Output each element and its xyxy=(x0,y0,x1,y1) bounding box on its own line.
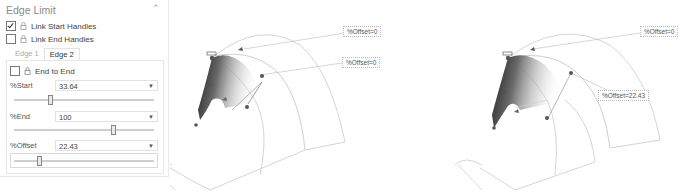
end-input[interactable]: 100 ▼ xyxy=(55,111,158,122)
slider-track xyxy=(14,99,154,101)
link-start-handles-checkbox[interactable] xyxy=(6,21,16,31)
end-to-end-row[interactable]: End to End xyxy=(10,65,75,77)
start-label: %Start xyxy=(10,81,33,90)
edge-limit-panel: Edge Limit ⌃ Link Start Handles Link End… xyxy=(0,0,169,177)
dropdown-arrow-icon[interactable]: ▼ xyxy=(148,141,154,152)
end-slider[interactable] xyxy=(14,125,154,135)
link-end-handles-row[interactable]: Link End Handles xyxy=(6,33,94,45)
tab-edge-2[interactable]: Edge 2 xyxy=(44,48,80,60)
dropdown-arrow-icon[interactable]: ▼ xyxy=(148,112,154,123)
slider-track xyxy=(14,129,154,131)
start-value: 33.64 xyxy=(59,82,78,91)
link-icon xyxy=(20,35,27,43)
start-input[interactable]: 33.64 ▼ xyxy=(55,80,158,91)
offset-slider-thumb[interactable] xyxy=(37,156,42,166)
offset-label-mid: %Offset=22.43 xyxy=(598,90,649,101)
end-value: 100 xyxy=(59,113,72,122)
link-icon xyxy=(20,22,27,30)
lock-icon xyxy=(24,67,31,75)
edge-tabs: Edge 1 Edge 2 xyxy=(10,48,80,60)
dropdown-arrow-icon[interactable]: ▼ xyxy=(148,81,154,92)
surface-geometry-before xyxy=(170,0,440,195)
offset-label-mid: %Offset=0 xyxy=(342,57,380,68)
panel-title: Edge Limit xyxy=(6,4,56,16)
tab-edge-1[interactable]: Edge 1 xyxy=(10,48,44,60)
offset-label: %Offset xyxy=(10,141,37,150)
slider-track xyxy=(14,160,154,162)
offset-slider[interactable] xyxy=(14,156,154,166)
viewport-after[interactable]: %Offset=0 %Offset=22.43 xyxy=(440,0,686,195)
chevron-up-icon[interactable]: ⌃ xyxy=(152,3,160,13)
start-slider-thumb[interactable] xyxy=(48,95,53,105)
offset-label-top: %Offset=0 xyxy=(343,26,381,37)
offset-input[interactable]: 22.43 ▼ xyxy=(55,140,158,151)
offset-label-top: %Offset=0 xyxy=(640,26,678,37)
start-slider[interactable] xyxy=(14,95,154,105)
link-end-handles-label: Link End Handles xyxy=(31,35,94,44)
viewport-before[interactable]: %Offset=0 %Offset=0 xyxy=(170,0,440,195)
link-end-handles-checkbox[interactable] xyxy=(6,34,16,44)
end-slider-thumb[interactable] xyxy=(111,125,116,135)
end-label: %End xyxy=(10,112,30,121)
end-to-end-label: End to End xyxy=(35,67,75,76)
link-start-handles-label: Link Start Handles xyxy=(31,22,96,31)
offset-value: 22.43 xyxy=(59,142,78,151)
link-start-handles-row[interactable]: Link Start Handles xyxy=(6,20,96,32)
panel-header[interactable]: Edge Limit ⌃ xyxy=(6,3,164,19)
end-to-end-checkbox[interactable] xyxy=(10,66,20,76)
